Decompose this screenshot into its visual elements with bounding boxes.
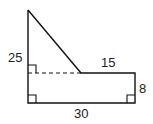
right-angle-mark-lower-left [28, 95, 36, 103]
figure-outline [28, 10, 135, 103]
label-bottom-width: 30 [74, 106, 88, 121]
composite-figure-diagram: 25 15 8 30 [0, 0, 153, 124]
right-angle-mark-lower-right [127, 95, 135, 103]
label-right-height: 8 [139, 81, 146, 96]
label-left-height: 25 [8, 50, 22, 65]
label-top-right-width: 15 [101, 55, 115, 70]
right-angle-mark-upper-left [28, 65, 36, 73]
